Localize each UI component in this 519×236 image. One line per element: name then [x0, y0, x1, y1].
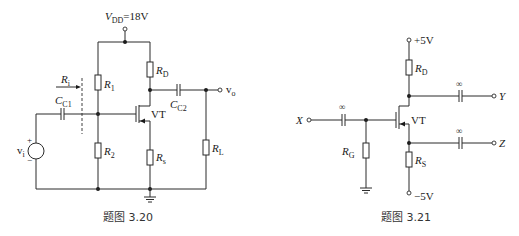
r1-label: R1: [103, 78, 115, 93]
cap-infinity-label: ∞: [456, 79, 462, 89]
vpos-label: +5V: [414, 34, 434, 46]
resistor-rg: [363, 143, 369, 158]
rd-label: RD: [414, 62, 428, 77]
rl-label: RL: [211, 142, 224, 157]
mosfet-vt: VT: [98, 105, 166, 124]
resistor-rs: [147, 150, 153, 165]
vt-label: VT: [411, 114, 426, 126]
x-label: X: [295, 114, 304, 126]
vdd-label: VDD=18V: [105, 10, 149, 25]
figure-3-20: VDD=18V R1 R2 RD CC2 vo: [17, 10, 236, 224]
figure-caption: 题图 3.20: [103, 211, 153, 224]
vi-minus: −: [27, 155, 32, 165]
figure-caption: 题图 3.21: [381, 211, 431, 224]
vneg-label: −5V: [414, 190, 434, 202]
y-terminal: [492, 94, 496, 98]
cap-infinity-label: ∞: [339, 102, 345, 112]
cc2-label: CC2: [170, 98, 187, 113]
z-label: Z: [499, 137, 506, 149]
resistor-r1: [95, 75, 101, 90]
rg-label: RG: [341, 145, 355, 160]
mosfet-vt: VT: [396, 106, 426, 129]
ground-icon: [144, 189, 156, 202]
figure-3-21: +5V RD ∞ Y X ∞ RG: [295, 34, 507, 224]
ground-icon: [360, 188, 372, 193]
cap-infinity-label: ∞: [456, 126, 462, 136]
arrow-icon: [76, 85, 81, 89]
rs-label: Rs: [155, 151, 166, 166]
x-terminal: [307, 118, 311, 122]
vi-plus: +: [27, 135, 32, 145]
vo-terminal: [218, 88, 222, 92]
circuit-diagrams: VDD=18V R1 R2 RD CC2 vo: [0, 0, 519, 236]
vi-label: vi: [17, 144, 26, 159]
arrow-icon: [140, 119, 145, 124]
ri-label: Ri: [60, 73, 71, 88]
resistor-rl: [203, 140, 209, 155]
vdd-terminal: [123, 27, 127, 31]
junction-dot: [123, 40, 127, 44]
vpos-terminal: [407, 38, 411, 42]
resistor-rs: [406, 152, 412, 167]
rd-label: RD: [155, 64, 169, 79]
resistor-rd: [147, 62, 153, 77]
vneg-terminal: [407, 191, 411, 195]
rs-label: RS: [414, 154, 426, 169]
resistor-r2: [95, 143, 101, 158]
r2-label: R2: [103, 145, 115, 160]
z-terminal: [492, 141, 496, 145]
vt-label: VT: [151, 108, 166, 120]
resistor-rd: [406, 60, 412, 75]
y-label: Y: [499, 90, 507, 102]
cc1-label: CC1: [55, 94, 72, 109]
vo-label: vo: [226, 83, 236, 98]
arrow-icon: [400, 122, 405, 127]
